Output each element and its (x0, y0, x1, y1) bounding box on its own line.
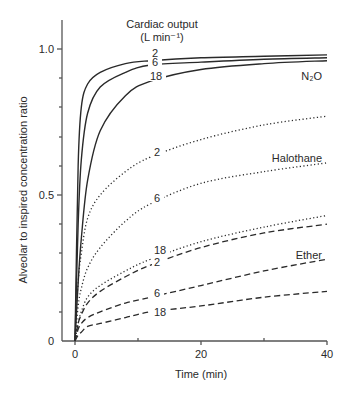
axes (57, 20, 327, 345)
x-tick-label: 40 (321, 348, 333, 360)
curve-label-eth-2: 2 (154, 256, 160, 268)
series-line-halothane-18 (75, 215, 327, 341)
curve-label-eth-18: 18 (154, 306, 166, 318)
halothane-label: Halothane (272, 152, 322, 164)
series-line-n2o-2 (75, 55, 327, 341)
series-line-n2o-6 (75, 58, 327, 341)
series-line-ether-6 (75, 259, 327, 341)
y-tick-label: 1.0 (39, 43, 54, 55)
n2o-label: N₂O (301, 70, 322, 82)
y-axis-title: Alveolar to inspired concentration ratio (17, 96, 29, 283)
series-line-n2o-18 (75, 61, 327, 341)
curve-label-hal-6: 6 (154, 192, 160, 204)
curve-label-hal-2: 2 (154, 146, 160, 158)
curve-labels: 2 6 18 N₂O 2 Halothane 6 18 2 Ether 6 18 (146, 47, 322, 318)
chart-title: Cardiac output (126, 18, 198, 30)
x-tick-label: 20 (195, 348, 207, 360)
curve-label-n2o-18: 18 (150, 70, 162, 82)
series-group (75, 55, 327, 341)
curve-label-n2o-6: 6 (152, 56, 158, 68)
chart-title-unit: (L min⁻¹) (140, 31, 183, 43)
series-line-halothane-6 (75, 163, 327, 341)
chart: 1.0 0.5 0 0 20 40 Time (min) Alveolar to… (0, 0, 346, 395)
x-tick-label: 0 (72, 348, 78, 360)
curve-label-eth-6: 6 (154, 287, 160, 299)
y-tick-label: 0.5 (39, 189, 54, 201)
series-line-ether-18 (75, 291, 327, 341)
y-tick-label: 0 (48, 335, 54, 347)
x-axis-title: Time (min) (175, 368, 227, 380)
ether-label: Ether (296, 249, 323, 261)
curve-label-hal-18: 18 (154, 244, 166, 256)
